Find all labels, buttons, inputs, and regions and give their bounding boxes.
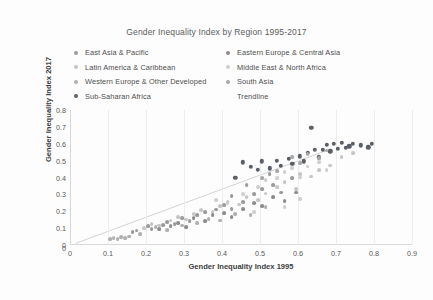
scatter-point — [339, 141, 343, 145]
scatter-point — [283, 199, 287, 203]
scatter-point — [325, 168, 329, 172]
scatter-point — [207, 217, 211, 221]
scatter-point — [309, 175, 313, 179]
scatter-point — [260, 204, 264, 208]
scatter-point — [283, 171, 287, 175]
scatter-point — [306, 152, 310, 156]
scatter-point — [306, 165, 310, 169]
scatter-point — [264, 205, 268, 209]
legend-item[interactable]: East Asia & Pacific — [74, 46, 149, 59]
scatter-point — [283, 205, 287, 209]
legend-item[interactable]: Latin America & Caribbean — [74, 61, 175, 74]
scatter-point — [195, 214, 199, 218]
scatter-point — [203, 210, 207, 214]
x-axis-tick-label: 0.8 — [369, 249, 379, 258]
x-axis-tick-label: 0.2 — [141, 249, 151, 258]
legend-item[interactable]: Sub-Saharan Africa — [74, 90, 151, 103]
legend-item[interactable]: Middle East & North Africa — [226, 61, 326, 74]
scatter-point — [245, 183, 249, 187]
scatter-point — [325, 149, 329, 153]
legend-marker-dot-icon — [74, 51, 78, 55]
legend-item-label: Western Europe & Other Developed — [85, 77, 206, 86]
scatter-point — [256, 185, 260, 189]
scatter-point — [184, 218, 188, 222]
legend-marker-dot-icon — [74, 94, 78, 98]
y-axis-tick-label: 0.3 — [56, 190, 66, 199]
scatter-point — [176, 221, 180, 225]
x-axis-tick-label: 0.7 — [331, 249, 341, 258]
scatter-point — [233, 175, 237, 179]
scatter-point — [279, 191, 283, 195]
scatter-point — [260, 187, 264, 191]
legend-item[interactable]: South Asia — [226, 75, 273, 88]
legend-item[interactable]: Eastern Europe & Central Asia — [226, 46, 340, 59]
scatter-point — [260, 159, 264, 163]
plot-area: 00.10.20.30.40.50.60.70.80.900.10.20.30.… — [70, 110, 412, 245]
scatter-point — [230, 207, 234, 211]
x-axis-title: Gender Inequality Index 1995 — [70, 262, 412, 271]
y-axis-tick-label: 0.1 — [56, 224, 66, 233]
scatter-point — [260, 176, 264, 180]
scatter-point — [290, 155, 294, 159]
scatter-point — [230, 215, 234, 219]
scatter-point — [249, 214, 253, 218]
scatter-point — [211, 214, 215, 218]
scatter-point — [351, 142, 355, 146]
gridline-vertical — [336, 110, 337, 245]
y-axis-line — [70, 110, 71, 245]
x-axis-tick-label: 0.6 — [293, 249, 303, 258]
legend-item-label: Sub-Saharan Africa — [85, 92, 151, 101]
legend-marker-dot-icon — [226, 65, 230, 69]
scatter-point — [301, 159, 305, 163]
scatter-point — [138, 232, 142, 236]
scatter-point — [271, 195, 275, 199]
scatter-point — [241, 207, 245, 211]
y-axis-tick-label: 0.4 — [56, 173, 66, 182]
scatter-point — [366, 145, 370, 149]
legend-item[interactable]: Western Europe & Other Developed — [74, 75, 206, 88]
scatter-point — [222, 211, 226, 215]
scatter-point — [290, 176, 294, 180]
scatter-point — [336, 147, 340, 151]
legend-marker-dot-icon — [226, 51, 230, 55]
scatter-point — [298, 154, 302, 158]
gridline-vertical — [412, 110, 413, 245]
legend-item[interactable]: Trendline — [226, 90, 268, 103]
scatter-point — [241, 160, 245, 164]
legend-marker-dot-icon — [226, 80, 230, 84]
scatter-point — [309, 126, 313, 130]
scatter-point — [233, 212, 237, 216]
scatter-point — [195, 221, 199, 225]
x-axis-tick-label: 0.4 — [217, 249, 227, 258]
scatter-point — [230, 194, 234, 198]
legend-marker-dot-icon — [74, 80, 78, 84]
legend-item-label: Eastern Europe & Central Asia — [237, 48, 340, 57]
legend-item-label: Latin America & Caribbean — [85, 63, 175, 72]
scatter-point — [294, 191, 298, 195]
scatter-point — [252, 210, 256, 214]
y-axis-title: Gender Inequality Index 2017 — [44, 40, 53, 180]
scatter-point — [298, 161, 302, 165]
scatter-point — [176, 215, 180, 219]
scatter-point — [157, 227, 161, 231]
trendline — [70, 110, 412, 245]
scatter-point — [184, 225, 188, 229]
chart-container: Gender Inequality Index by Region 1995-2… — [0, 0, 433, 300]
scatter-point — [252, 201, 256, 205]
scatter-point — [169, 219, 173, 223]
gridline-vertical — [222, 110, 223, 245]
scatter-point — [218, 204, 222, 208]
scatter-point — [290, 166, 294, 170]
scatter-point — [256, 198, 260, 202]
scatter-point — [192, 216, 196, 220]
y-axis-tick-label: 0.5 — [56, 156, 66, 165]
scatter-point — [268, 172, 272, 176]
y-axis-tick-label: 0.7 — [56, 122, 66, 131]
chart-title: Gender Inequality Index by Region 1995-2… — [0, 27, 433, 37]
scatter-point — [298, 198, 302, 202]
scatter-point — [275, 169, 279, 173]
x-axis-tick-label: 0.5 — [255, 249, 265, 258]
scatter-point — [358, 143, 362, 147]
x-axis-tick-label: 0.1 — [103, 249, 113, 258]
scatter-point — [283, 180, 287, 184]
